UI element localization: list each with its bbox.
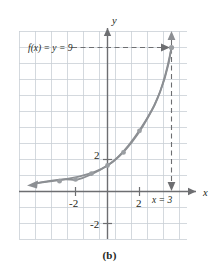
graph-canvas: y x f(x) = y = 9 x = 3 2 -2 2 -2	[0, 0, 219, 275]
x-tick-label-2: 2	[136, 197, 142, 209]
vertical-line-annotation: x = 3	[151, 195, 172, 205]
horizontal-line-annotation: f(x) = y = 9	[28, 43, 73, 54]
grid-lines	[19, 31, 187, 240]
y-tick-label-negative-2: -2	[90, 218, 99, 230]
y-intercept-label: 2	[94, 149, 100, 161]
x-tick-label-negative-2: -2	[69, 197, 78, 209]
x-axis-label: x	[202, 187, 208, 198]
figure-caption: (b)	[0, 249, 219, 261]
exponential-function-figure: y x f(x) = y = 9 x = 3 2 -2 2 -2 (b)	[0, 0, 219, 275]
vertical-reference-line	[168, 31, 176, 191]
y-axis-label: y	[111, 15, 117, 26]
